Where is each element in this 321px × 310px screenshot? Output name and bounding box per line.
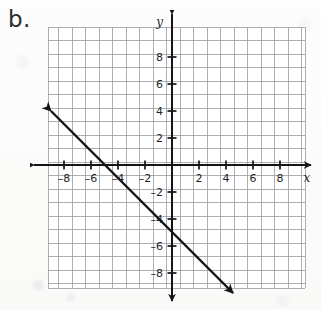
y-tick-label: 4 bbox=[156, 105, 163, 118]
problem-label: b. bbox=[8, 8, 31, 31]
x-axis-label: x bbox=[304, 171, 311, 185]
graph-svg: –8 –6 –4 –2 2 4 6 8 8 6 4 2 –2 –4 –6 –8 bbox=[30, 10, 315, 305]
x-tick-label: –8 bbox=[58, 172, 71, 185]
y-axis-label: y bbox=[155, 15, 163, 29]
graph-paper-background bbox=[48, 27, 305, 288]
y-tick-label: 2 bbox=[156, 132, 163, 145]
y-tick-label: –2 bbox=[151, 186, 164, 199]
y-tick-label: –8 bbox=[151, 267, 164, 280]
y-tick-label: 8 bbox=[156, 51, 163, 64]
x-tick-label: 8 bbox=[277, 172, 284, 185]
x-tick-label: –2 bbox=[139, 172, 152, 185]
y-tick-label: –6 bbox=[151, 240, 164, 253]
x-tick-label: 6 bbox=[250, 172, 257, 185]
worksheet-page: b. bbox=[0, 0, 321, 310]
coordinate-graph: –8 –6 –4 –2 2 4 6 8 8 6 4 2 –2 –4 –6 –8 bbox=[30, 10, 315, 305]
y-tick-label: 6 bbox=[156, 78, 163, 91]
x-tick-label: –6 bbox=[85, 172, 98, 185]
x-tick-label: 4 bbox=[223, 172, 230, 185]
x-tick-label: 2 bbox=[196, 172, 203, 185]
